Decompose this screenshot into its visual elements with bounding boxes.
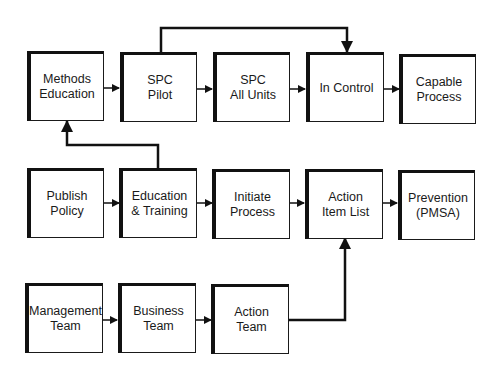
edge-spc-pilot-to-in-control <box>161 28 347 53</box>
node-capable-process: Capable Process <box>399 54 476 124</box>
node-spc-pilot: SPC Pilot <box>120 52 197 122</box>
node-prevention-pmsa: Prevention (PMSA) <box>398 170 475 240</box>
edge-action-team-to-action-item-list <box>289 238 345 320</box>
node-management-team: Management Team <box>25 283 103 353</box>
node-publish-policy: Publish Policy <box>27 168 104 238</box>
node-action-team: Action Team <box>211 284 289 354</box>
node-methods-education: Methods Education <box>27 51 104 121</box>
node-action-item-list: Action Item List <box>305 169 383 239</box>
node-spc-all-units: SPC All Units <box>213 52 290 122</box>
node-in-control: In Control <box>306 52 384 122</box>
node-initiate-process: Initiate Process <box>212 169 290 239</box>
edge-education-to-methods <box>67 121 158 168</box>
node-education-training: Education & Training <box>119 168 197 238</box>
node-business-team: Business Team <box>118 283 196 353</box>
